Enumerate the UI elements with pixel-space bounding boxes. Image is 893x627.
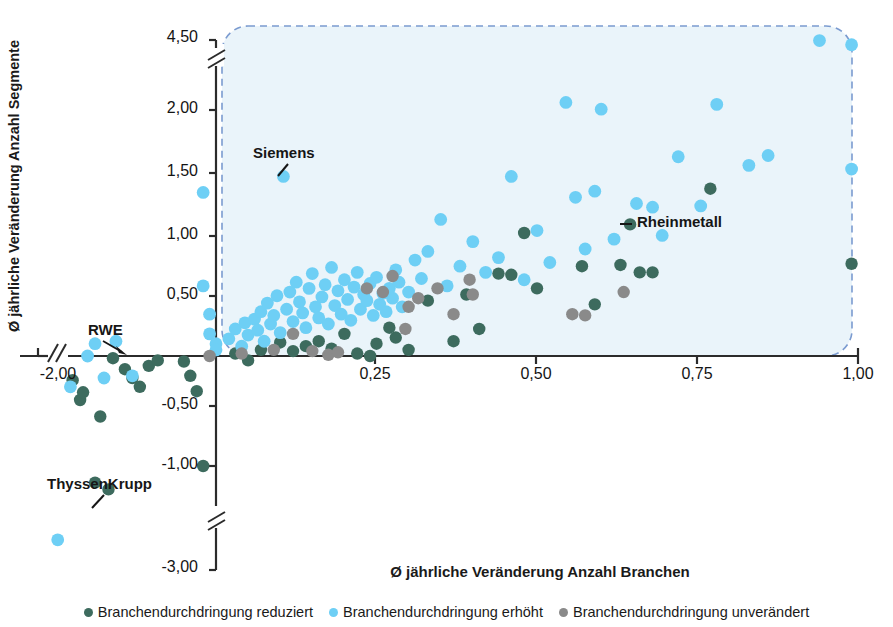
data-point [566,308,578,320]
legend-item-reduziert: Branchendurchdringung reduziert [84,604,313,620]
y-tick-label-4-50: 4,50 [118,28,198,46]
data-point [274,326,287,339]
data-point [287,345,299,357]
data-point [531,224,544,237]
data-point [431,282,443,294]
x-tick-label-minus-2-00: -2,00 [0,365,118,383]
data-point [447,335,459,347]
data-point [267,309,280,322]
data-point [617,286,629,298]
data-point [390,331,402,343]
chart-legend: Branchendurchdringung reduziert Branchen… [0,600,893,624]
data-point [306,345,318,357]
data-point [325,261,338,274]
scatter-chart: Ø jährliche Veränderung Anzahl Segmente … [0,0,893,627]
data-point [290,276,303,289]
data-point [466,235,479,248]
data-point [672,150,685,163]
data-point [813,34,826,47]
data-point [646,201,659,214]
data-point [579,309,591,321]
data-point [361,282,373,294]
annotation-thyssenkrupp: ThyssenKrupp [47,475,152,492]
annotation-rheinmetall: Rheinmetall [637,213,722,230]
data-point [235,347,247,359]
data-point [845,38,858,51]
data-point [588,185,601,198]
data-point [370,338,382,350]
y-tick-label-1-50: 1,50 [118,162,198,180]
data-point [473,323,485,335]
data-point [704,183,716,195]
data-point [322,318,335,331]
data-point [479,266,492,279]
data-point [845,163,858,176]
annotation-rwe: RWE [88,321,123,338]
data-point [203,308,216,321]
y-tick-label-2-00: 2,00 [118,99,198,117]
data-point [152,354,164,366]
data-point [518,273,531,286]
y-tick-label-0-50: 0,50 [118,285,198,303]
data-point [287,315,300,328]
x-axis-ticks [375,356,858,364]
x-tick-label-0-50: 0,50 [496,365,576,383]
data-point [306,267,319,280]
data-point [268,344,280,356]
x-tick-label-0-75: 0,75 [657,365,737,383]
data-point [251,324,264,337]
data-point [742,159,755,172]
legend-marker-icon-erhoeht [329,608,338,617]
legend-item-unveraendert: Branchendurchdringung unverändert [559,604,809,620]
data-point [710,98,723,111]
data-point [402,344,414,356]
y-tick-label-minus-0-50: -0,50 [110,395,198,413]
data-point [377,286,389,298]
data-point [614,259,626,271]
data-point [409,254,422,267]
legend-marker-icon-reduziert [84,608,93,617]
data-point [467,288,479,300]
data-point [576,260,588,272]
data-point [351,266,364,279]
data-point [344,314,357,327]
data-point [332,284,345,297]
data-point [380,305,393,318]
data-point [203,350,215,362]
data-point [184,370,196,382]
data-point [197,186,210,199]
data-point [492,267,504,279]
data-point [89,337,102,350]
data-point [107,352,119,364]
annotation-siemens: Siemens [253,144,315,161]
legend-marker-icon-unveraendert [559,608,568,617]
data-point [341,293,354,306]
data-point [197,460,209,472]
data-point [197,279,210,292]
y-axis-break-lower [208,506,225,530]
x-tick-label-1-00: 1,00 [818,365,893,383]
data-point [178,355,190,367]
data-point [299,321,312,334]
data-point [646,266,658,278]
y-tick-label-minus-3-00: -3,00 [110,558,198,576]
data-point [370,271,383,284]
data-point [351,347,363,359]
data-point [543,256,556,269]
data-point [630,197,643,210]
data-point [293,295,306,308]
data-point [296,307,309,320]
legend-label-erhoeht: Branchendurchdringung erhöht [343,604,543,620]
data-point [134,381,146,393]
data-point [415,272,428,285]
data-point [505,170,518,183]
data-point [762,149,775,162]
data-point [608,233,621,246]
legend-label-reduziert: Branchendurchdringung reduziert [98,604,313,620]
x-axis-break-left [46,344,68,363]
data-point [656,229,669,242]
data-point [505,269,517,281]
data-point [338,328,350,340]
thyssenkrupp-leader-line [92,495,104,508]
data-point [634,266,646,278]
